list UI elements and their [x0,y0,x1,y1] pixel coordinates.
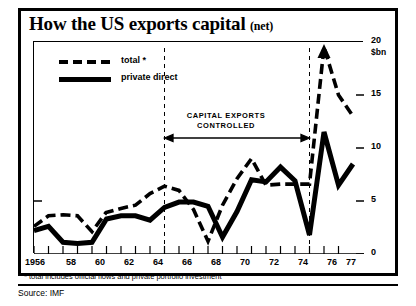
x-tick-label-58: 58 [66,257,76,267]
x-tick-label-60: 60 [95,257,105,267]
x-tick-label-70: 70 [240,257,250,267]
capital-exports-annotation: CAPITAL EXPORTS CONTROLLED [151,111,301,131]
y-axis-ticks [356,95,364,254]
capital-exports-arrow [165,135,310,142]
chart-frame: How the US exports capital (net) [18,8,398,276]
annotation-line-1: CAPITAL EXPORTS [184,111,269,121]
footer-divider [18,284,398,286]
x-axis-ticks [34,246,339,254]
series-private-direct-line [34,132,353,243]
x-tick-label-62: 62 [124,257,134,267]
legend-swatch-dashed-icon [59,60,111,64]
x-tick-label-74: 74 [298,257,308,267]
y-tick-label-10: 10 [371,141,381,151]
y-tick-label-5: 5 [371,194,376,204]
x-tick-label-72: 72 [269,257,279,267]
x-tick-label-68: 68 [211,257,221,267]
x-tick-label-66: 66 [182,257,192,267]
x-tick-label-76: 76 [327,257,337,267]
y-tick-label-20: 20 [371,35,381,45]
title-bar: How the US exports capital (net) [21,11,395,41]
y-tick-label-15: 15 [371,88,381,98]
legend-label-private-direct: private direct [121,72,178,82]
y-tick-label-0: 0 [371,247,376,257]
x-tick-label-77: 77 [346,257,356,267]
title-main: How the US exports capital [29,13,245,34]
x-tick-label-1956: 1956 [25,257,45,267]
chart-svg [34,42,364,254]
y-axis-unit: $bn [371,47,386,57]
page-title: How the US exports capital (net) [29,13,273,35]
plot-area [33,41,363,253]
x-tick-label-64: 64 [153,257,163,267]
chart-page: How the US exports capital (net) [0,0,416,306]
footnote: * total includes official flows and priv… [24,272,221,281]
source-label: Source: IMF [18,288,64,298]
series-total-peak-arrow [318,44,331,58]
legend-swatch-solid-icon [59,77,111,82]
annotation-line-2: CONTROLLED [151,121,301,131]
title-qualifier: (net) [250,19,273,33]
legend-label-total: total * [121,55,146,65]
